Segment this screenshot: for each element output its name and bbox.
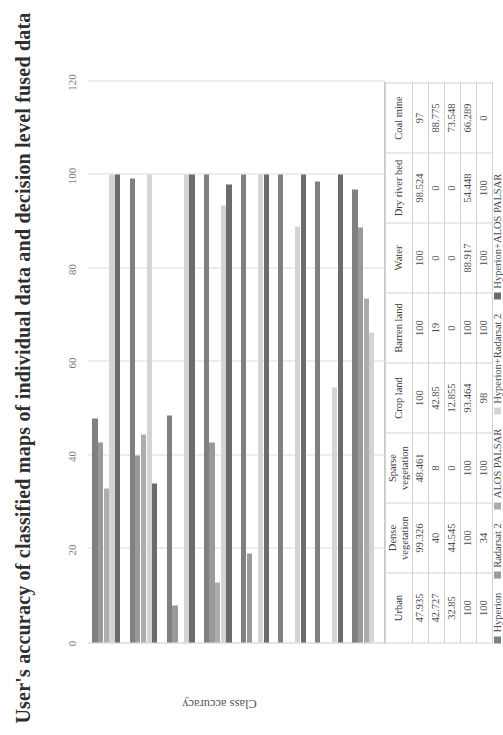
table-cell: 100 [477, 573, 493, 643]
chart-legend: HyperionRadarsat 2ALOS PALSARHyperion+Ra… [492, 43, 503, 643]
table-cell: 100 [477, 433, 493, 503]
table-cell: 100 [461, 503, 477, 573]
table-cell: 100 [413, 363, 429, 433]
axis-tick-40: 40 [66, 451, 78, 462]
bar [247, 553, 252, 642]
table-row: 10010010093.46410088.91754.44866.289 [461, 83, 477, 643]
legend-swatch-icon [494, 502, 501, 509]
legend-swatch-icon [494, 636, 501, 643]
value-axis-title: Class accuracy [160, 696, 280, 711]
axis-tick-120: 120 [66, 74, 78, 91]
bar [215, 582, 220, 642]
table-column-header: Crop land [386, 363, 413, 433]
bar-group [125, 81, 162, 642]
bar [109, 175, 114, 643]
table-column-header: Urban [386, 573, 413, 643]
bar [221, 205, 226, 642]
legend-label: Hyperion+Radarsat 2 [492, 313, 503, 403]
bar-group [311, 81, 348, 642]
table-cell: 66.289 [461, 83, 477, 153]
axis-tick-100: 100 [66, 167, 78, 184]
table-cell: 54.448 [461, 153, 477, 223]
bar [241, 175, 246, 643]
legend-item[interactable]: Radarsat 2 [492, 523, 503, 579]
table-cell: 100 [461, 573, 477, 643]
table-cell: 44.545 [445, 503, 461, 573]
bar [184, 175, 189, 643]
bar [258, 175, 263, 643]
bar-group [274, 81, 311, 642]
axis-tick-0: 0 [66, 640, 78, 646]
plot-area [88, 81, 385, 643]
table-cell: 42.727 [429, 573, 445, 643]
legend-label: Hyperion+ALOS PALSAR [492, 173, 503, 288]
axis-tick-60: 60 [66, 357, 78, 368]
bar [352, 189, 357, 642]
table-cell: 73.548 [445, 83, 461, 153]
table-cell: 19 [429, 293, 445, 363]
table-row: 42.72740842.85190088.775 [429, 83, 445, 643]
table-cell: 0 [445, 433, 461, 503]
legend-swatch-icon [494, 292, 501, 299]
table-column-header: Barren land [386, 293, 413, 363]
table-cell: 0 [445, 293, 461, 363]
bar [152, 483, 157, 642]
legend-item[interactable]: Hyperion [492, 592, 503, 643]
table-column-header: Dense vegetation [386, 503, 413, 573]
bar [189, 175, 194, 643]
bar [135, 455, 140, 642]
bar [209, 442, 214, 642]
chart-title: User's accuracy of classified maps of in… [10, 0, 36, 735]
bar [92, 418, 97, 642]
bar [115, 175, 120, 643]
legend-label: Radarsat 2 [492, 523, 503, 568]
table-header-row: UrbanDense vegetationSparse vegetationCr… [386, 83, 413, 643]
table-cell: 100 [413, 223, 429, 293]
legend-item[interactable]: Hyperion+ALOS PALSAR [492, 173, 503, 299]
axis-tick-80: 80 [66, 264, 78, 275]
bar [264, 175, 269, 643]
table-cell: 32.85 [445, 573, 461, 643]
table-cell: 0 [477, 83, 493, 153]
table-cell: 88.917 [461, 223, 477, 293]
bar [147, 175, 152, 643]
bar [358, 227, 363, 642]
bar-group [348, 81, 385, 642]
table-cell: 100 [477, 223, 493, 293]
bar-group [88, 81, 125, 642]
bar [338, 175, 343, 643]
bar-group [237, 81, 274, 642]
legend-label: Hyperion [492, 592, 503, 632]
table-column-header: Coal mine [386, 83, 413, 153]
bar [295, 226, 300, 642]
table-cell: 12.855 [445, 363, 461, 433]
table-row: 47.93599.32648.46110010010098.52497 [413, 83, 429, 643]
data-table: UrbanDense vegetationSparse vegetationCr… [385, 82, 493, 643]
table-cell: 99.326 [413, 503, 429, 573]
table-column-header: Dry river bed [386, 153, 413, 223]
bar [167, 415, 172, 642]
table-cell: 47.935 [413, 573, 429, 643]
bar [98, 442, 103, 642]
bar [130, 178, 135, 642]
bar [141, 434, 146, 642]
bar [204, 175, 209, 643]
bar [364, 298, 369, 642]
table-cell: 98 [477, 363, 493, 433]
table-row: 10034100981001001000 [477, 83, 493, 643]
bar [226, 184, 231, 642]
legend-swatch-icon [494, 407, 501, 414]
bar [104, 488, 109, 642]
table-cell: 42.85 [429, 363, 445, 433]
legend-item[interactable]: Hyperion+Radarsat 2 [492, 313, 503, 414]
legend-item[interactable]: ALOS PALSAR [492, 428, 503, 508]
table-column-header: Sparse vegetation [386, 433, 413, 503]
table-cell: 93.464 [461, 363, 477, 433]
table-column-header: Water [386, 223, 413, 293]
table-cell: 48.461 [413, 433, 429, 503]
legend-swatch-icon [494, 571, 501, 578]
table-cell: 8 [429, 433, 445, 503]
table-cell: 0 [445, 153, 461, 223]
